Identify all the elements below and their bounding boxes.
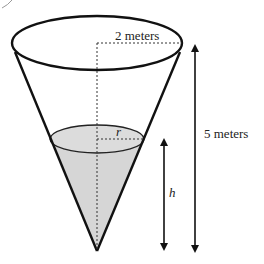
water-height-label: h <box>169 185 176 200</box>
cone-diagram: 2 meters r h 5 meters <box>0 0 264 264</box>
top-radius-label: 2 meters <box>115 28 159 43</box>
total-height-label: 5 meters <box>204 126 248 141</box>
corner-arc-fragment <box>2 0 12 8</box>
